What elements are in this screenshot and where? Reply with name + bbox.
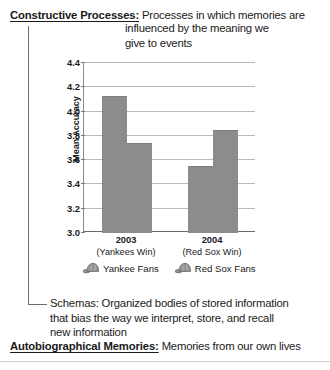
y-axis-tick-label: 3.4 (67, 178, 80, 189)
bar-chart: Mean Accuracy 4.44.24.03.83.63.43.23.0 2… (44, 62, 284, 290)
autobiographical-definition-text: Memories from our own lives (162, 340, 301, 352)
y-axis-tick-mark (81, 135, 85, 136)
legend-entry: Red Sox Fans (175, 262, 256, 274)
x-axis-labels: 2003(Yankees Win)2004(Red Sox Win) (83, 235, 255, 265)
legend-label: Yankee Fans (103, 263, 159, 274)
term-constructive-processes: Constructive Processes: (10, 9, 139, 21)
y-axis-tick-label: 3.0 (67, 227, 80, 238)
schemas-line-3: new information (50, 325, 326, 340)
definition-line-3: give to events (125, 36, 326, 51)
x-axis-sublabel: (Red Sox Win) (167, 247, 257, 259)
definition-header-row: Constructive Processes: Processes in whi… (10, 9, 326, 21)
x-axis-category: 2004 (167, 235, 257, 247)
y-axis-tick-label: 3.6 (67, 154, 80, 165)
y-axis-tick-mark (81, 111, 85, 112)
definition-continuation: influenced by the meaning we give to eve… (125, 21, 326, 50)
bar-yankee-fans-2003 (102, 96, 127, 233)
bar-red-sox-fans-2003 (127, 143, 152, 233)
schemas-line-2: that bias the way we interpret, store, a… (50, 311, 326, 326)
legend-entry: Yankee Fans (83, 262, 159, 274)
y-axis-tick-label: 4.0 (67, 105, 80, 116)
y-axis-tick-mark (81, 62, 85, 63)
autobiographical-memories-definition: Autobiographical Memories: Memories from… (10, 340, 326, 352)
constructive-processes-definition: Constructive Processes: Processes in whi… (10, 9, 326, 50)
y-axis-tick-mark (81, 183, 85, 184)
definition-line-1: Processes in which memories are (142, 9, 305, 21)
term-autobiographical-memories: Autobiographical Memories: (10, 340, 159, 352)
y-axis-tick-mark (81, 232, 85, 233)
gridline (84, 86, 255, 87)
y-axis-tick-labels: 4.44.24.03.83.63.43.23.0 (58, 62, 80, 232)
gridline (84, 62, 255, 63)
baseball-cap-icon (83, 262, 100, 274)
schemas-line-1: Schemas: Organized bodies of stored info… (50, 296, 326, 311)
legend-label: Red Sox Fans (195, 263, 256, 274)
y-axis-tick-mark (81, 208, 85, 209)
bar-yankee-fans-2004 (188, 166, 213, 233)
x-axis-sublabel: (Yankees Win) (81, 247, 171, 259)
x-axis-category: 2003 (81, 235, 171, 247)
y-axis-tick-mark (81, 159, 85, 160)
y-axis-tick-label: 4.4 (67, 57, 80, 68)
x-axis-group-label: 2003(Yankees Win) (81, 235, 171, 258)
y-axis-tick-label: 4.2 (67, 81, 80, 92)
bar-red-sox-fans-2004 (213, 130, 238, 233)
bottom-divider (0, 361, 330, 362)
schemas-definition: Schemas: Organized bodies of stored info… (50, 296, 326, 340)
plot-area (83, 62, 255, 232)
definition-line-2: influenced by the meaning we (125, 21, 326, 36)
y-axis-tick-label: 3.2 (67, 202, 80, 213)
y-axis-tick-label: 3.8 (67, 129, 80, 140)
chart-legend: Yankee FansRed Sox Fans (83, 262, 283, 274)
y-axis-tick-mark (81, 86, 85, 87)
baseball-cap-icon (175, 262, 192, 274)
x-axis-group-label: 2004(Red Sox Win) (167, 235, 257, 258)
